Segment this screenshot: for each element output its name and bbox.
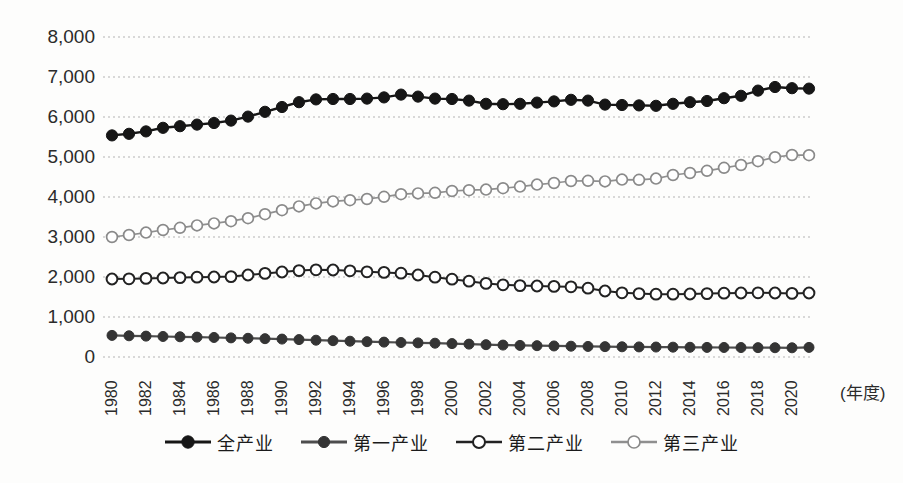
series-primary-industry-marker: [175, 332, 185, 342]
series-secondary-industry-marker: [345, 265, 356, 276]
legend-item-series-secondary-industry: 第二产业: [455, 429, 584, 455]
x-axis-tick-label: 1986: [205, 380, 222, 416]
series-tertiary-industry-marker: [566, 176, 577, 187]
series-tertiary-industry-marker: [736, 160, 747, 171]
x-axis-tick-label: 2016: [715, 380, 732, 416]
series-all-industries-marker: [650, 100, 661, 111]
series-all-industries-legend-marker-icon: [164, 434, 212, 450]
series-primary-industry-marker: [209, 332, 219, 342]
series-tertiary-industry-marker: [702, 165, 713, 176]
series-primary-industry-marker: [617, 342, 627, 352]
x-axis-tick-label: 2012: [647, 380, 664, 416]
series-tertiary-industry-marker: [107, 232, 118, 243]
series-secondary-industry-marker: [498, 279, 509, 290]
series-secondary-industry-marker: [158, 273, 169, 284]
series-all-industries-marker: [378, 92, 389, 103]
series-all-industries-marker: [310, 94, 321, 105]
series-all-industries-marker: [548, 96, 559, 107]
series-secondary-industry-marker: [787, 288, 798, 299]
series-secondary-industry-marker: [209, 272, 220, 283]
series-secondary-industry-marker: [532, 281, 543, 292]
series-primary-industry-marker: [787, 343, 797, 353]
series-secondary-industry-marker: [311, 264, 322, 275]
series-all-industries-marker: [429, 93, 440, 104]
legend-label: 第三产业: [663, 429, 739, 455]
series-tertiary-industry-marker: [124, 230, 135, 241]
x-axis-tick-label: 1992: [307, 380, 324, 416]
series-primary-industry-marker: [396, 338, 406, 348]
x-axis-tick-label: 1982: [137, 380, 154, 416]
series-secondary-industry-marker: [294, 265, 305, 276]
series-secondary-industry-legend-marker-icon: [455, 434, 503, 450]
series-primary-industry-marker: [311, 335, 321, 345]
series-primary-industry-marker: [141, 331, 151, 341]
series-secondary-industry-marker: [328, 265, 339, 276]
series-primary-industry-marker: [362, 337, 372, 347]
x-axis-tick-label: 2008: [579, 380, 596, 416]
series-secondary-industry-marker: [804, 288, 815, 299]
series-tertiary-industry-marker: [226, 216, 237, 227]
y-axis-tick-label: 6,000: [47, 106, 95, 127]
series-all-industries-marker: [531, 97, 542, 108]
series-primary-industry-marker: [447, 339, 457, 349]
x-axis-tick-label: 2010: [613, 380, 630, 416]
series-secondary-industry-marker: [396, 268, 407, 279]
series-primary-industry-marker: [430, 338, 440, 348]
series-primary-industry-marker: [243, 333, 253, 343]
y-axis-tick-label: 3,000: [47, 226, 95, 247]
series-tertiary-industry-marker: [464, 185, 475, 196]
series-all-industries-marker: [140, 126, 151, 137]
series-primary-industry-marker: [736, 343, 746, 353]
series-primary-industry-marker: [226, 333, 236, 343]
series-tertiary-industry-marker: [719, 162, 730, 173]
series-all-industries-marker: [769, 81, 780, 92]
series-all-industries-marker: [242, 111, 253, 122]
series-primary-industry-marker: [515, 340, 525, 350]
series-all-industries-marker: [344, 93, 355, 104]
series-secondary-industry-marker: [719, 288, 730, 299]
series-secondary-industry-marker: [379, 267, 390, 278]
series-primary-industry-marker: [294, 335, 304, 345]
y-axis-tick-label: 7,000: [47, 66, 95, 87]
series-all-industries-marker: [395, 89, 406, 100]
x-axis-tick-label: 1988: [239, 380, 256, 416]
series-all-industries-marker: [123, 128, 134, 139]
series-all-industries-marker: [412, 91, 423, 102]
series-secondary-industry-marker: [668, 289, 679, 300]
series-all-industries-marker: [633, 100, 644, 111]
series-primary-industry-legend-marker-icon: [300, 434, 348, 450]
series-tertiary-industry-marker: [600, 176, 611, 187]
series-tertiary-industry-marker: [328, 196, 339, 207]
series-tertiary-industry-marker: [651, 173, 662, 184]
chart-canvas: 01,0002,0003,0004,0005,0006,0007,0008,00…: [0, 0, 903, 483]
y-axis-tick-label: 4,000: [47, 186, 95, 207]
series-secondary-industry-marker: [549, 281, 560, 292]
series-all-industries-marker: [259, 106, 270, 117]
series-tertiary-industry-legend-marker-icon: [610, 434, 658, 450]
series-primary-industry-marker: [107, 330, 117, 340]
series-tertiary-industry-marker: [294, 201, 305, 212]
series-tertiary-industry-marker: [498, 183, 509, 194]
series-primary-industry-marker: [549, 341, 559, 351]
series-secondary-industry-marker: [617, 287, 628, 298]
series-primary-industry-marker: [277, 334, 287, 344]
series-primary-industry-marker: [464, 339, 474, 349]
x-axis-tick-label: 1994: [341, 380, 358, 416]
series-all-industries-marker: [208, 117, 219, 128]
x-axis-unit-label: (年度): [840, 384, 885, 403]
series-tertiary-industry-marker: [685, 168, 696, 179]
series-all-industries-marker: [616, 99, 627, 110]
x-axis-tick-label: 1998: [409, 380, 426, 416]
x-axis-tick-label: 2006: [545, 380, 562, 416]
series-secondary-industry-marker: [566, 281, 577, 292]
legend-item-series-primary-industry: 第一产业: [300, 429, 429, 455]
series-primary-industry-marker: [702, 342, 712, 352]
series-tertiary-industry-marker: [770, 152, 781, 163]
series-secondary-industry-marker: [175, 272, 186, 283]
series-all-industries-marker: [157, 122, 168, 133]
x-axis-tick-label: 1984: [171, 380, 188, 416]
y-axis-tick-label: 0: [84, 346, 95, 367]
series-tertiary-industry-marker: [243, 213, 254, 224]
series-tertiary-industry-marker: [362, 194, 373, 205]
series-primary-industry-marker: [413, 338, 423, 348]
